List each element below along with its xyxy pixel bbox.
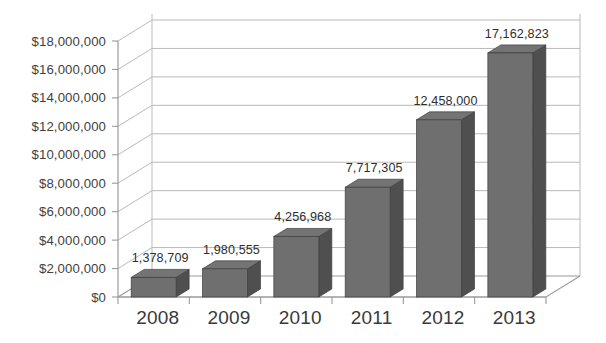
y-axis-tick-label: $8,000,000 — [39, 176, 106, 191]
y-axis-tick-label: $14,000,000 — [32, 90, 106, 105]
x-axis-category-label: 2013 — [493, 307, 536, 328]
bar-side-face — [461, 112, 474, 297]
y-axis-tick-label: $12,000,000 — [32, 119, 106, 134]
bar-front-face — [345, 187, 390, 297]
y-axis-tick-label: $10,000,000 — [32, 147, 106, 162]
bar-3d — [345, 179, 403, 297]
bar-3d — [203, 261, 261, 297]
y-axis-tick-label: $18,000,000 — [32, 34, 106, 49]
bar-front-face — [488, 53, 533, 297]
y-axis-tick-label: $4,000,000 — [39, 233, 106, 248]
chart-container: $0$2,000,000$4,000,000$6,000,000$8,000,0… — [0, 0, 606, 343]
bar-side-face — [533, 45, 546, 297]
y-axis-tick-label: $2,000,000 — [39, 261, 106, 276]
y-axis-tick-label: $0 — [91, 290, 106, 305]
bar-data-label: 1,980,555 — [203, 243, 260, 257]
x-axis-category-label: 2008 — [136, 307, 179, 328]
bar-data-label: 4,256,968 — [274, 210, 331, 224]
bar-front-face — [131, 277, 176, 297]
x-axis-category-label: 2009 — [207, 307, 250, 328]
bar-data-label: 1,378,709 — [132, 251, 189, 265]
x-axis-category-label: 2010 — [279, 307, 322, 328]
x-axis-category-label: 2012 — [421, 307, 464, 328]
x-axis-category-label: 2011 — [351, 307, 393, 328]
bar-front-face — [203, 269, 248, 297]
bar-data-label: 12,458,000 — [413, 94, 477, 108]
bar-side-face — [319, 228, 332, 297]
bar-data-label: 17,162,823 — [485, 27, 549, 41]
column-chart-3d: $0$2,000,000$4,000,000$6,000,000$8,000,0… — [0, 0, 606, 343]
bar-side-face — [390, 179, 403, 297]
bar-3d — [488, 45, 546, 297]
bar-3d — [417, 112, 475, 297]
y-axis-tick-label: $16,000,000 — [32, 62, 106, 77]
bar-3d — [131, 269, 189, 297]
y-axis-tick-label: $6,000,000 — [39, 204, 106, 219]
bar-data-label: 7,717,305 — [346, 161, 403, 175]
bar-3d — [274, 228, 332, 297]
bar-front-face — [417, 120, 462, 297]
bar-front-face — [274, 236, 319, 297]
